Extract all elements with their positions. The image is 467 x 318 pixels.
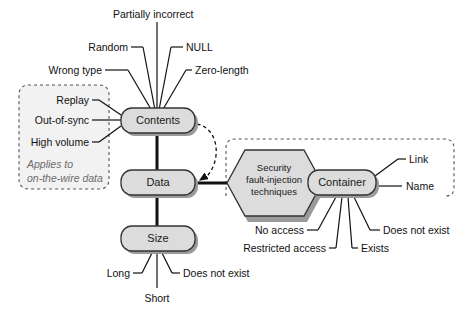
leaf-wrong-type: Wrong type [49, 64, 103, 76]
node-container[interactable]: Container [308, 170, 379, 198]
contents-to-data-arrow [197, 124, 216, 180]
leaf-short: Short [144, 292, 169, 304]
node-container-label: Container [318, 176, 366, 188]
leaf-restricted-access: Restricted access [243, 242, 326, 254]
hex-line-2: fault-injection [246, 174, 302, 185]
taxonomy-diagram: Contents Data Size Security fault-inject… [0, 0, 467, 318]
leaf-size-does-not-exist: Does not exist [183, 267, 250, 279]
node-contents[interactable]: Contents [121, 108, 198, 136]
node-contents-label: Contents [136, 114, 181, 126]
leaf-exists: Exists [361, 242, 389, 254]
node-size-label: Size [147, 232, 168, 244]
node-data-label: Data [146, 176, 170, 188]
leaf-replay: Replay [56, 94, 89, 106]
node-data[interactable]: Data [121, 170, 198, 198]
leaf-null: NULL [186, 41, 213, 53]
hex-line-3: techniques [251, 186, 297, 197]
leaf-name: Name [406, 180, 434, 192]
leaf-no-access: No access [255, 224, 304, 236]
leaf-high-volume: High volume [31, 136, 90, 148]
node-size[interactable]: Size [121, 226, 198, 254]
leaf-zero-length: Zero-length [195, 64, 249, 76]
size-leaf-connectors [133, 253, 180, 288]
diagram-canvas: Contents Data Size Security fault-inject… [0, 0, 467, 318]
leaf-out-of-sync: Out-of-sync [35, 114, 89, 126]
leaf-long: Long [107, 267, 131, 279]
note-line-2: on-the-wire data [27, 172, 103, 184]
note-line-1: Applies to [26, 158, 73, 170]
leaf-random: Random [88, 41, 128, 53]
leaf-link: Link [409, 153, 429, 165]
hex-line-1: Security [257, 162, 292, 173]
leaf-container-does-not-exist: Does not exist [383, 224, 450, 236]
leaf-partially-incorrect: Partially incorrect [113, 8, 194, 20]
